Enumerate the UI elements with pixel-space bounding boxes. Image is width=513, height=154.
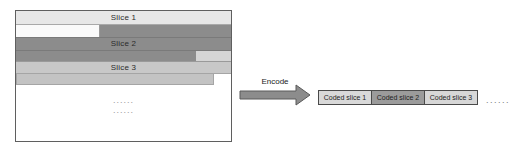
slice2-header-row: Slice 2 xyxy=(16,38,231,51)
slice3-label: Slice 3 xyxy=(16,62,231,73)
ellipsis-line2: ...... xyxy=(16,105,231,115)
coded-slice-3-box: Coded slice 3 xyxy=(424,90,478,105)
slice2-partial-segment xyxy=(16,51,196,61)
slice2-partial-row xyxy=(16,51,231,62)
slice1-partial-row xyxy=(16,25,231,38)
trailing-ellipsis: ...... xyxy=(486,95,510,105)
encode-arrow-icon xyxy=(239,84,311,106)
slice-encoding-diagram: Slice 1 Slice 2 Slice 3 ...... ...... En… xyxy=(0,0,513,154)
slice1-partial-segment xyxy=(16,25,100,37)
slice1-label: Slice 1 xyxy=(16,11,231,24)
slice3-partial-row xyxy=(16,74,231,85)
slice1-header-row: Slice 1 xyxy=(16,11,231,25)
slice3-header-row: Slice 3 xyxy=(16,62,231,74)
coded-slice-2-box: Coded slice 2 xyxy=(371,90,425,105)
ellipsis-line1: ...... xyxy=(16,95,231,105)
coded-slice-1-box: Coded slice 1 xyxy=(318,90,372,105)
slice2-label: Slice 2 xyxy=(16,38,231,50)
slice3-partial-segment xyxy=(16,74,214,85)
more-slices-ellipsis: ...... ...... xyxy=(16,95,231,115)
picture-frame: Slice 1 Slice 2 Slice 3 ...... ...... xyxy=(15,10,232,142)
